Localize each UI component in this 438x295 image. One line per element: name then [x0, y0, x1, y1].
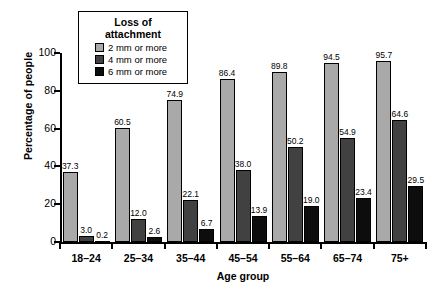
bar-value-label: 95.7 — [370, 50, 397, 60]
legend-entry: 2 mm or more — [95, 42, 181, 53]
bar-value-label: 64.6 — [386, 109, 413, 119]
x-tick-mark — [268, 242, 270, 249]
x-tick-label: 25–34 — [112, 252, 164, 264]
legend-entry-label: 2 mm or more — [108, 42, 167, 53]
bar-chart-figure: Percentage of people 020406080100 18–242… — [0, 0, 438, 295]
y-tick-label: 100 — [38, 46, 56, 58]
bar — [324, 63, 339, 242]
bar-value-label: 29.5 — [402, 175, 429, 185]
legend-swatch-icon — [95, 43, 104, 52]
legend-entry-label: 4 mm or more — [108, 54, 167, 65]
legend-entry-label: 6 mm or more — [108, 66, 167, 77]
bar — [356, 198, 371, 242]
legend-entry: 4 mm or more — [95, 54, 181, 65]
legend: Loss of attachment 2 mm or more4 mm or m… — [78, 11, 188, 84]
bar — [199, 229, 214, 242]
x-tick-label: 65–74 — [321, 252, 373, 264]
x-tick-label: 35–44 — [165, 252, 217, 264]
y-tick-label: 20 — [44, 197, 56, 209]
x-tick-mark — [373, 242, 375, 249]
x-tick-mark — [320, 242, 322, 249]
bar — [304, 206, 319, 242]
bar-value-label: 89.8 — [266, 61, 293, 71]
bar — [167, 100, 182, 242]
x-tick-label: 75+ — [374, 252, 426, 264]
bar-value-label: 6.7 — [193, 218, 220, 228]
x-tick-mark — [111, 242, 113, 249]
bar-value-label: 60.5 — [109, 117, 136, 127]
y-axis-title: Percentage of people — [22, 16, 34, 196]
legend-swatch-icon — [95, 67, 104, 76]
y-tick-label: 40 — [44, 159, 56, 171]
legend-entry: 6 mm or more — [95, 66, 181, 77]
x-axis-title: Age group — [60, 270, 426, 282]
bar-value-label: 86.4 — [214, 68, 241, 78]
x-tick-mark — [425, 242, 427, 249]
legend-title: Loss of attachment — [85, 16, 181, 40]
y-tick-label: 80 — [44, 84, 56, 96]
bar — [376, 61, 391, 242]
bar-value-label: 94.5 — [318, 52, 345, 62]
x-tick-mark — [59, 242, 61, 249]
x-tick-mark — [216, 242, 218, 249]
bar-value-label: 38.0 — [230, 159, 257, 169]
bar-value-label: 50.2 — [282, 136, 309, 146]
bar-value-label: 12.0 — [125, 208, 152, 218]
bar-value-label: 74.9 — [161, 89, 188, 99]
legend-swatch-icon — [95, 55, 104, 64]
x-tick-mark — [164, 242, 166, 249]
bar — [115, 128, 130, 242]
bar-value-label: 13.9 — [246, 205, 273, 215]
x-tick-label: 18–24 — [60, 252, 112, 264]
bar — [408, 186, 423, 242]
x-tick-label: 55–64 — [269, 252, 321, 264]
bar-value-label: 0.2 — [89, 230, 116, 240]
bar — [147, 237, 162, 242]
y-tick-label: 0 — [50, 235, 56, 247]
y-tick-label: 60 — [44, 122, 56, 134]
bar-value-label: 22.1 — [177, 189, 204, 199]
bar — [272, 72, 287, 242]
bar — [95, 241, 110, 243]
bar — [252, 216, 267, 242]
bar-value-label: 19.0 — [298, 195, 325, 205]
bar-value-label: 54.9 — [334, 127, 361, 137]
bar-value-label: 2.6 — [141, 226, 168, 236]
x-tick-label: 45–54 — [217, 252, 269, 264]
x-axis-line — [60, 242, 426, 244]
bar-value-label: 23.4 — [350, 187, 377, 197]
bar-value-label: 37.3 — [57, 161, 84, 171]
legend-entries: 2 mm or more4 mm or more6 mm or more — [85, 42, 181, 77]
